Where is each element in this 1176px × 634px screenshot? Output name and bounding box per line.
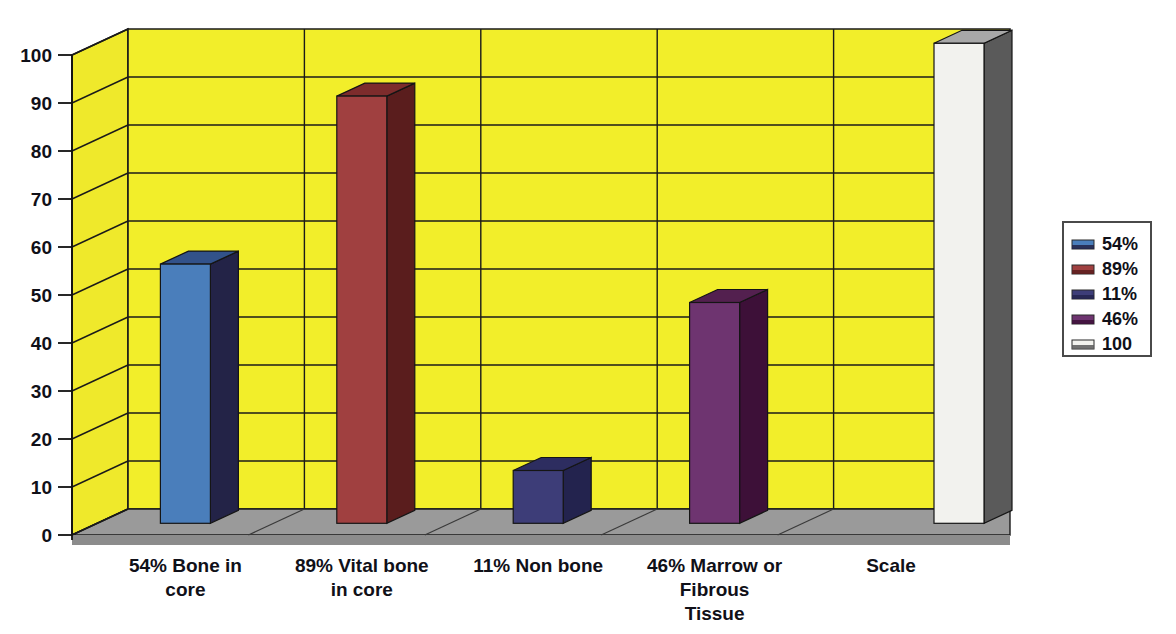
- bar-1: [160, 251, 238, 523]
- bar-chart-3d: 0102030405060708090100 54% Bone incore89…: [0, 0, 1176, 634]
- legend-swatch-shadow: [1072, 320, 1094, 324]
- y-axis-tick-label: 80: [31, 141, 52, 162]
- y-axis-tick-label: 90: [31, 93, 52, 114]
- legend-swatch-shadow: [1072, 295, 1094, 299]
- bar-2: [337, 83, 415, 523]
- x-axis-label: 54% Bone incore: [129, 555, 242, 600]
- bar-3: [513, 458, 591, 524]
- x-axis-label-line: in core: [331, 579, 393, 600]
- legend: 54%89%11%46%100: [1063, 222, 1151, 356]
- y-axis-tick-label: 0: [41, 525, 52, 546]
- bar-side-face: [984, 30, 1012, 523]
- x-axis-label-line: 11% Non bone: [473, 555, 603, 576]
- y-axis-tick-label: 20: [31, 429, 52, 450]
- y-axis-tick-label: 50: [31, 285, 52, 306]
- legend-swatch-shadow: [1072, 345, 1094, 349]
- legend-swatch-shadow: [1072, 270, 1094, 274]
- x-axis-label-line: 46% Marrow or: [647, 555, 783, 576]
- legend-label: 100: [1102, 334, 1132, 354]
- y-axis-tick-label: 40: [31, 333, 52, 354]
- x-axis-label: Scale: [866, 555, 916, 576]
- x-axis-label-line: Fibrous: [680, 579, 750, 600]
- x-axis-labels: 54% Bone incore89% Vital bonein core11% …: [129, 555, 916, 624]
- bar-side-face: [740, 290, 768, 524]
- x-axis-label-line: 54% Bone in: [129, 555, 242, 576]
- bar-front-face: [690, 303, 740, 524]
- legend-label: 54%: [1102, 234, 1138, 254]
- legend-swatch-shadow: [1072, 245, 1094, 249]
- x-axis-label-line: Scale: [866, 555, 916, 576]
- bar-front-face: [934, 43, 984, 523]
- y-axis-tick-label: 10: [31, 477, 52, 498]
- legend-label: 89%: [1102, 259, 1138, 279]
- floor-front-edge: [72, 535, 1010, 545]
- y-axis-tick-label: 30: [31, 381, 52, 402]
- y-axis-tick-label: 60: [31, 237, 52, 258]
- bar-front-face: [160, 264, 210, 523]
- bar-side-face: [210, 251, 238, 523]
- bar-front-face: [513, 471, 563, 524]
- y-axis-tick-label: 70: [31, 189, 52, 210]
- legend-label: 11%: [1102, 284, 1137, 304]
- x-axis-label: 11% Non bone: [473, 555, 603, 576]
- y-axis-tick-label: 100: [20, 45, 52, 66]
- x-axis-label: 46% Marrow orFibrousTissue: [647, 555, 783, 624]
- bar-side-face: [387, 83, 415, 523]
- bar-4: [690, 290, 768, 524]
- x-axis-label-line: Tissue: [685, 603, 745, 624]
- chart-container: 0102030405060708090100 54% Bone incore89…: [0, 0, 1176, 634]
- y-axis-ticks: [58, 55, 72, 535]
- bar-5: [934, 30, 1012, 523]
- x-axis-label: 89% Vital bonein core: [295, 555, 429, 600]
- x-axis-label-line: 89% Vital bone: [295, 555, 429, 576]
- x-axis-label-line: core: [165, 579, 205, 600]
- bar-front-face: [337, 96, 387, 523]
- legend-label: 46%: [1102, 309, 1138, 329]
- y-axis-tick-labels: 0102030405060708090100: [20, 45, 52, 546]
